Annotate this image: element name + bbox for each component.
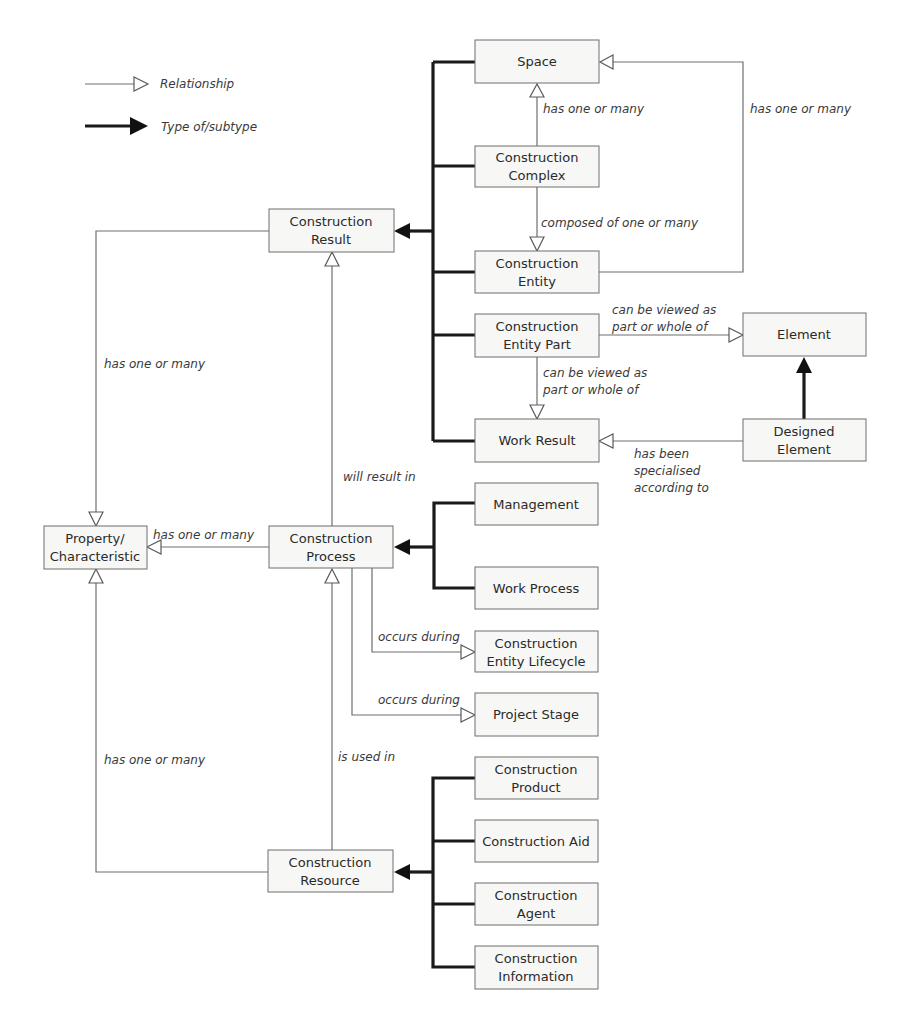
svg-text:Work Result: Work Result (498, 433, 575, 448)
solid-arrow-icon (130, 117, 148, 135)
node-construction-aid[interactable]: Construction Aid (475, 820, 598, 862)
svg-text:Space: Space (517, 54, 557, 69)
node-construction-agent[interactable]: Construction Agent (475, 883, 598, 925)
svg-text:Project Stage: Project Stage (493, 707, 579, 722)
edge-label: will result in (343, 470, 416, 484)
edge-part-viewed-element: can be viewed as part or whole of (599, 303, 743, 342)
legend-relationship: Relationship (85, 77, 235, 91)
relationship-arrow-icon (530, 405, 544, 419)
relationship-arrow-icon (530, 237, 544, 251)
edge-entity-has-space: has one or many (599, 55, 852, 272)
edge-label: according to (634, 481, 709, 495)
edge-label: has one or many (750, 102, 852, 116)
edge-label: specialised (634, 464, 701, 478)
svg-text:Complex: Complex (508, 168, 565, 183)
edge-result-has-property: has one or many (89, 231, 269, 526)
svg-text:Property/: Property/ (65, 531, 125, 546)
svg-text:Management: Management (493, 497, 579, 512)
node-work-process[interactable]: Work Process (475, 567, 598, 609)
relationship-arrow-icon (89, 512, 103, 526)
relationship-arrow-icon (461, 708, 475, 722)
node-project-stage[interactable]: Project Stage (475, 693, 598, 736)
subtype-arrow-icon (796, 357, 812, 373)
legend-relationship-label: Relationship (160, 77, 235, 91)
node-construction-process[interactable]: Construction Process (269, 526, 393, 568)
node-construction-resource[interactable]: Construction Resource (268, 850, 393, 892)
svg-text:Construction: Construction (289, 855, 372, 870)
edge-process-occurs-stage: occurs during (352, 568, 475, 722)
open-arrow-icon (134, 77, 148, 91)
node-construction-entity-part[interactable]: Construction Entity Part (475, 314, 599, 357)
svg-text:Construction: Construction (495, 636, 578, 651)
construction-information-model-diagram: Relationship Type of/subtype (0, 0, 903, 1023)
svg-text:Element: Element (777, 327, 831, 342)
edge-label: has one or many (104, 753, 206, 767)
relationship-arrow-icon (530, 84, 544, 97)
svg-text:Work Process: Work Process (493, 581, 580, 596)
edge-label: composed of one or many (541, 216, 699, 230)
edge-label: part or whole of (542, 383, 640, 397)
node-construction-result[interactable]: Construction Result (269, 209, 394, 252)
node-designed-element[interactable]: Designed Element (743, 419, 866, 461)
edge-part-viewed-work-result: can be viewed as part or whole of (530, 357, 647, 419)
svg-text:Entity Lifecycle: Entity Lifecycle (486, 654, 585, 669)
edge-resource-has-property: has one or many (89, 569, 268, 872)
edge-designed-specialised-work-result: has been specialised according to (599, 434, 743, 495)
result-subtype-tree (394, 62, 475, 441)
node-construction-complex[interactable]: Construction Complex (475, 146, 599, 187)
edge-complex-has-space: has one or many (530, 84, 645, 146)
node-element[interactable]: Element (743, 313, 866, 356)
node-property-characteristic[interactable]: Property/ Characteristic (44, 526, 147, 569)
svg-text:Construction: Construction (495, 888, 578, 903)
node-construction-information[interactable]: Construction Information (475, 946, 598, 989)
svg-text:Product: Product (511, 780, 560, 795)
svg-text:Construction: Construction (496, 256, 579, 271)
edge-resource-used-in-process: is used in (325, 569, 395, 850)
relationship-arrow-icon (600, 55, 613, 69)
edge-label: can be viewed as (612, 303, 716, 317)
edge-label: is used in (338, 750, 395, 764)
svg-text:Entity Part: Entity Part (503, 337, 571, 352)
node-management[interactable]: Management (475, 483, 598, 525)
node-work-result[interactable]: Work Result (475, 419, 599, 462)
legend: Relationship Type of/subtype (85, 77, 257, 135)
relationship-arrow-icon (147, 540, 161, 554)
relationship-arrow-icon (89, 569, 103, 583)
edge-process-results-in-result: will result in (325, 252, 416, 526)
edge-label: has been (634, 447, 689, 461)
edge-label: has one or many (153, 528, 255, 542)
svg-text:Resource: Resource (300, 873, 360, 888)
resource-subtype-tree (394, 778, 475, 967)
svg-text:Construction: Construction (496, 150, 579, 165)
edge-process-has-property: has one or many (147, 528, 269, 554)
edge-label: occurs during (378, 693, 460, 707)
svg-text:Agent: Agent (517, 906, 555, 921)
edge-label: has one or many (543, 102, 645, 116)
svg-text:Result: Result (311, 232, 351, 247)
svg-text:Characteristic: Characteristic (50, 549, 140, 564)
svg-text:Construction Aid: Construction Aid (482, 834, 590, 849)
svg-text:Construction: Construction (496, 319, 579, 334)
subtype-arrow-icon (394, 864, 410, 880)
legend-type-label: Type of/subtype (161, 120, 257, 134)
legend-type-of-subtype: Type of/subtype (85, 117, 257, 135)
svg-text:Construction: Construction (290, 531, 373, 546)
svg-text:Construction: Construction (495, 951, 578, 966)
svg-text:Construction: Construction (495, 762, 578, 777)
relationship-arrow-icon (325, 569, 339, 583)
svg-text:Process: Process (306, 549, 356, 564)
relationship-arrow-icon (461, 645, 475, 659)
process-subtype-tree (394, 503, 475, 588)
subtype-arrow-icon (394, 539, 410, 555)
node-construction-entity[interactable]: Construction Entity (475, 251, 599, 293)
edge-label: has one or many (104, 357, 206, 371)
relationship-arrow-icon (599, 434, 613, 448)
edge-label: can be viewed as (543, 366, 647, 380)
edge-complex-composed-entity: composed of one or many (530, 187, 699, 251)
node-construction-product[interactable]: Construction Product (475, 757, 598, 799)
svg-text:Designed: Designed (773, 424, 834, 439)
edge-label: part or whole of (611, 320, 709, 334)
node-space[interactable]: Space (475, 40, 599, 83)
node-construction-entity-lifecycle[interactable]: Construction Entity Lifecycle (475, 631, 598, 672)
svg-text:Information: Information (498, 969, 573, 984)
